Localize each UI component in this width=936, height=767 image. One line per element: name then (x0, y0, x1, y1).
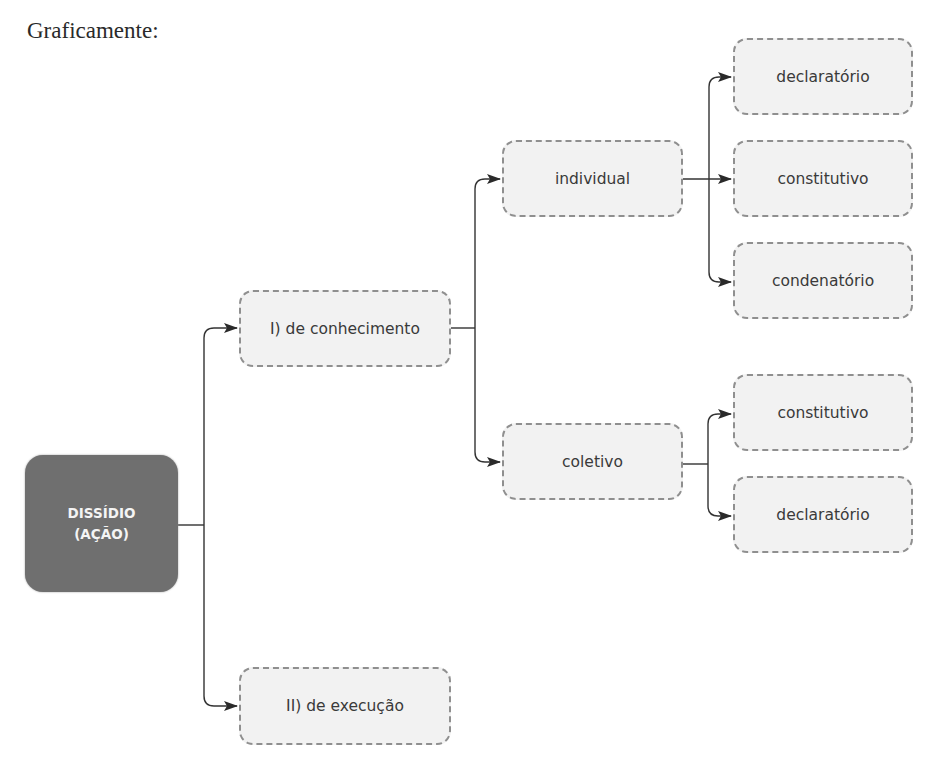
root-node-dissidio: DISSÍDIO (AÇÃO) (25, 455, 178, 592)
node-de-conhecimento: I) de conhecimento (239, 290, 451, 367)
node-coletivo-declaratorio: declaratório (733, 476, 913, 553)
node-individual-condenatorio: condenatório (733, 242, 913, 319)
root-label-line1: DISSÍDIO (68, 503, 136, 524)
node-label: constitutivo (777, 170, 868, 188)
node-de-execucao: II) de execução (239, 667, 451, 745)
node-coletivo: coletivo (502, 423, 683, 500)
node-label: declaratório (776, 506, 869, 524)
node-label: constitutivo (777, 404, 868, 422)
node-label: declaratório (776, 68, 869, 86)
node-individual-declaratorio: declaratório (733, 38, 913, 115)
node-label: coletivo (562, 453, 623, 471)
node-label: II) de execução (286, 697, 404, 715)
node-label: I) de conhecimento (270, 320, 420, 338)
node-individual-constitutivo: constitutivo (733, 140, 913, 217)
node-coletivo-constitutivo: constitutivo (733, 374, 913, 451)
node-label: condenatório (772, 272, 874, 290)
node-label: individual (555, 170, 630, 188)
node-individual: individual (502, 140, 683, 217)
root-label-line2: (AÇÃO) (74, 524, 129, 545)
